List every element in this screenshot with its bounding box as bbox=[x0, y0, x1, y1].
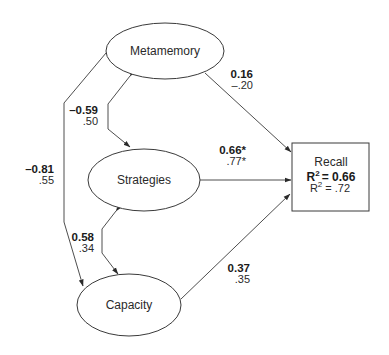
coef-metamemory-recall: 0.16 –.20 bbox=[231, 68, 253, 91]
node-recall: Recall R2= 0.66 R2 = .72 bbox=[292, 143, 369, 211]
coef-secondary: .34 bbox=[79, 242, 94, 254]
coef-secondary: –.20 bbox=[232, 79, 253, 91]
coef-strategies-capacity: 0.58 .34 bbox=[72, 231, 95, 254]
metamemory-label: Metamemory bbox=[130, 44, 200, 58]
coef-secondary: .50 bbox=[83, 115, 98, 127]
coef-secondary: .55 bbox=[39, 174, 54, 186]
node-strategies: Strategies bbox=[88, 149, 200, 211]
recall-label: Recall bbox=[314, 155, 347, 169]
coef-secondary: .77* bbox=[226, 155, 246, 167]
node-capacity: Capacity bbox=[77, 274, 181, 336]
coef-capacity-recall: 0.37 .35 bbox=[228, 262, 250, 285]
coef-strategies-recall: 0.66* .77* bbox=[219, 144, 247, 167]
coef-secondary: .35 bbox=[235, 273, 250, 285]
recall-r2-secondary: R2 = .72 bbox=[310, 180, 350, 194]
edge-strategies-capacity bbox=[102, 211, 118, 274]
edge-metamemory-strategies bbox=[108, 76, 130, 147]
coef-metamemory-strategies: –0.59 .50 bbox=[69, 104, 98, 127]
capacity-label: Capacity bbox=[106, 298, 153, 312]
coef-metamemory-capacity: –0.81 .55 bbox=[25, 163, 54, 186]
node-metamemory: Metamemory bbox=[106, 23, 224, 79]
strategies-label: Strategies bbox=[117, 173, 171, 187]
path-diagram: Metamemory Strategies Capacity Recall R2… bbox=[0, 0, 389, 355]
